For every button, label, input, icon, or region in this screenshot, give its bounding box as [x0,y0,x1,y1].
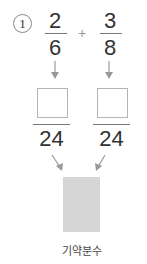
common-fraction-bar-right [93,124,130,125]
numerator-input-right[interactable] [97,88,128,118]
result-label: 기약분수 [52,242,112,258]
result-answer-box[interactable] [63,177,100,232]
numerator-input-left[interactable] [37,88,68,118]
common-fraction-bar-left [33,124,70,125]
common-denominator-left: 24 [33,128,70,150]
common-denominator-right: 24 [93,128,130,150]
